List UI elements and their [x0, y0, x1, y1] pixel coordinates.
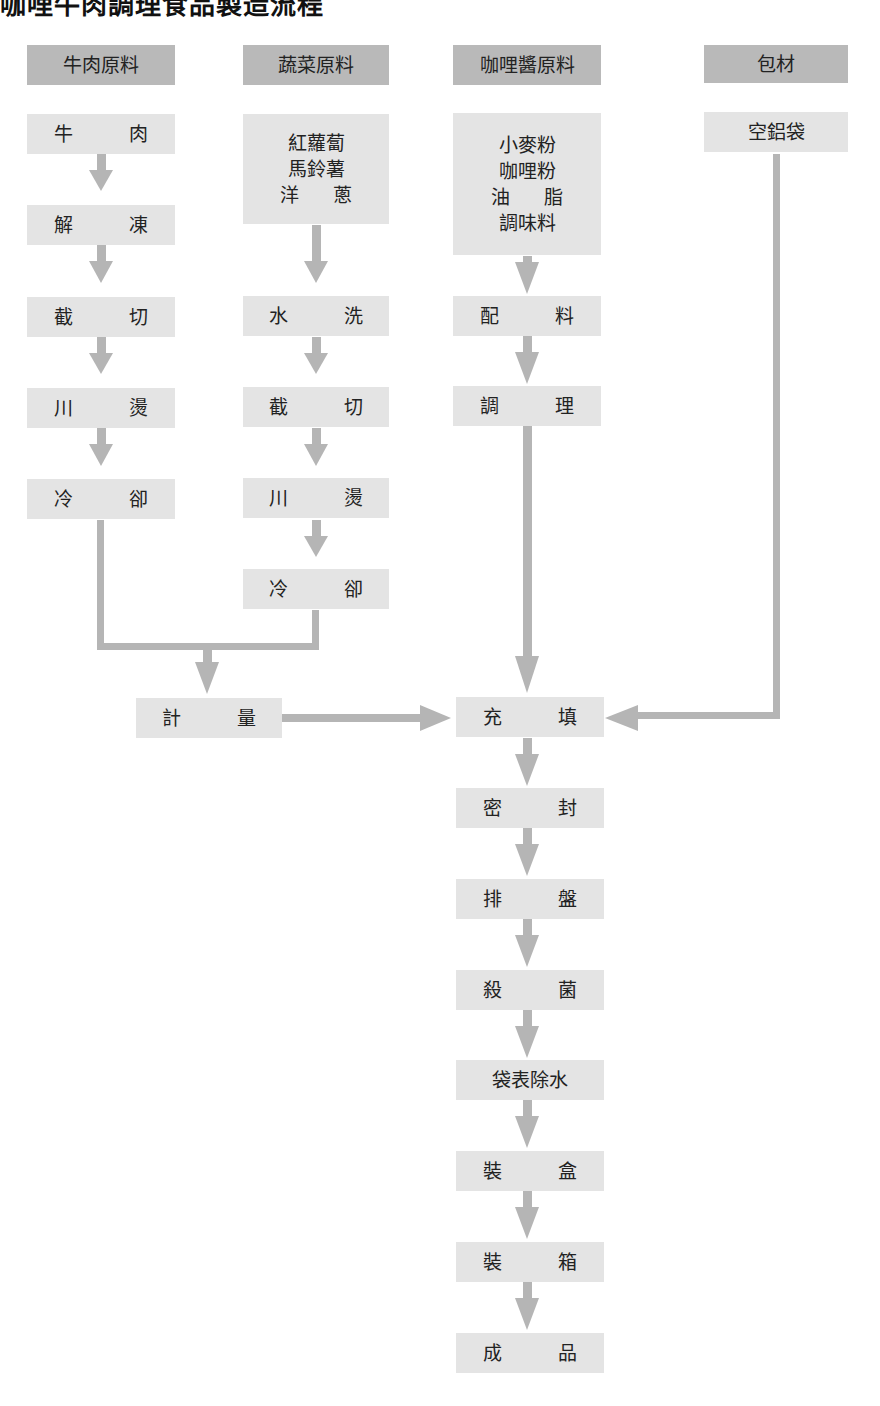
header-curry-sauce: 咖哩醬原料 [453, 45, 601, 85]
vegetable-ingredients: 紅蘿蔔 馬鈴薯 洋蔥 [243, 114, 389, 224]
header-beef: 牛肉原料 [27, 45, 175, 85]
step-cut: 截切 [243, 387, 389, 427]
step-blanch: 川燙 [243, 478, 389, 518]
step-box: 裝盒 [456, 1151, 604, 1191]
step-cool: 冷卻 [243, 569, 389, 609]
step-case: 裝箱 [456, 1242, 604, 1282]
step-blanch: 川燙 [27, 388, 175, 428]
step-seal: 密封 [456, 788, 604, 828]
empty-aluminum-bag: 空鋁袋 [704, 112, 848, 152]
step-finished-product: 成品 [456, 1333, 604, 1373]
step-tray: 排盤 [456, 879, 604, 919]
step-wash: 水洗 [243, 296, 389, 336]
header-packaging: 包材 [704, 45, 848, 83]
step-measure: 計量 [136, 698, 282, 738]
header-vegetable: 蔬菜原料 [243, 45, 389, 85]
step-fill: 充填 [456, 697, 604, 737]
step-cook: 調理 [453, 386, 601, 426]
step-sterilize: 殺菌 [456, 970, 604, 1010]
step-cut: 截切 [27, 297, 175, 337]
step-dry-surface: 袋表除水 [456, 1060, 604, 1100]
curry-ingredients: 小麥粉 咖哩粉 油脂 調味料 [453, 113, 601, 255]
step-cool: 冷卻 [27, 479, 175, 519]
step-thaw: 解凍 [27, 205, 175, 245]
step-mix: 配料 [453, 296, 601, 336]
step-beef: 牛肉 [27, 114, 175, 154]
